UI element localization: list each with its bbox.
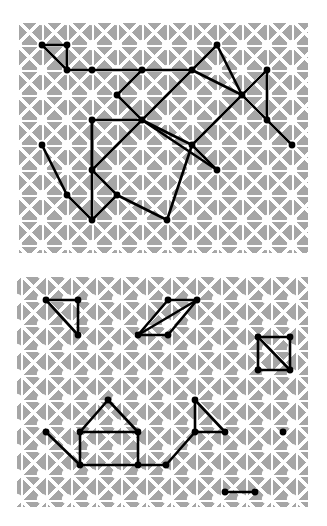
lattice-vertex <box>112 444 122 454</box>
lattice-vertex <box>237 240 247 250</box>
panel-bottom-canvas <box>17 277 308 507</box>
lattice-vertex <box>212 215 222 225</box>
lattice-vertex <box>162 344 172 354</box>
lattice-vertex <box>287 394 297 404</box>
lattice-vertex <box>187 444 197 454</box>
lattice-vertex <box>137 215 147 225</box>
graph-node <box>214 42 221 49</box>
lattice-vertex <box>112 165 122 175</box>
graph-node <box>64 42 71 49</box>
lattice-vertex <box>287 65 297 75</box>
graph-node <box>89 67 96 74</box>
lattice-vertex <box>237 190 247 200</box>
graph-node <box>192 429 199 436</box>
graph-node <box>89 117 96 124</box>
lattice-vertex <box>112 344 122 354</box>
graph-node <box>77 462 84 469</box>
lattice-vertex <box>112 40 122 50</box>
lattice-vertex <box>287 419 297 429</box>
lattice-vertex <box>262 215 272 225</box>
lattice-vertex <box>287 115 297 125</box>
lattice-vertex <box>87 394 97 404</box>
lattice-vertex <box>162 115 172 125</box>
graph-node <box>164 217 171 224</box>
graph-node <box>165 297 172 304</box>
lattice-vertex <box>187 215 197 225</box>
lattice-vertex <box>212 65 222 75</box>
lattice-vertex <box>37 165 47 175</box>
lattice-vertex <box>87 319 97 329</box>
lattice-vertex <box>37 344 47 354</box>
lattice-vertex <box>162 469 172 479</box>
lattice-vertex <box>37 65 47 75</box>
lattice-vertex <box>137 90 147 100</box>
lattice-vertex <box>87 40 97 50</box>
lattice-vertex <box>137 344 147 354</box>
lattice-vertex <box>112 469 122 479</box>
lattice-vertex <box>262 444 272 454</box>
lattice-vertex <box>262 190 272 200</box>
lattice-vertex <box>237 140 247 150</box>
lattice-vertex <box>237 494 247 504</box>
lattice-vertex <box>262 494 272 504</box>
lattice-vertex <box>262 165 272 175</box>
lattice-vertex <box>62 369 72 379</box>
lattice-vertex <box>37 444 47 454</box>
graph-node <box>89 167 96 174</box>
lattice-vertex <box>37 394 47 404</box>
lattice-vertex <box>62 140 72 150</box>
lattice-vertex <box>262 469 272 479</box>
lattice-vertex <box>262 319 272 329</box>
graph-node <box>114 192 121 199</box>
panel-top-canvas <box>17 23 308 253</box>
lattice-vertex <box>187 115 197 125</box>
lattice-vertex <box>162 190 172 200</box>
graph-node <box>264 117 271 124</box>
graph-node <box>239 92 246 99</box>
lattice-vertex <box>137 40 147 50</box>
lattice-vertex <box>212 469 222 479</box>
lattice-vertex <box>112 294 122 304</box>
lattice-vertex <box>162 444 172 454</box>
lattice-vertex <box>37 115 47 125</box>
lattice-vertex <box>212 394 222 404</box>
lattice-vertex <box>212 344 222 354</box>
lattice-vertex <box>212 444 222 454</box>
lattice-vertex <box>212 240 222 250</box>
lattice-vertex <box>187 240 197 250</box>
lattice-vertex <box>287 40 297 50</box>
lattice-vertex <box>187 344 197 354</box>
lattice-vertex <box>37 215 47 225</box>
lattice-vertex <box>162 369 172 379</box>
lattice-vertex <box>162 40 172 50</box>
lattice-vertex <box>162 140 172 150</box>
lattice-vertex <box>62 240 72 250</box>
lattice-vertex <box>87 469 97 479</box>
lattice-vertex <box>137 369 147 379</box>
graph-node <box>280 429 287 436</box>
lattice-vertex <box>87 444 97 454</box>
lattice-vertex <box>87 344 97 354</box>
lattice-vertex <box>237 165 247 175</box>
graph-node <box>39 142 46 149</box>
lattice-vertex <box>37 469 47 479</box>
panel-bottom <box>17 277 308 507</box>
lattice-vertex <box>62 344 72 354</box>
lattice-vertex <box>87 90 97 100</box>
graph-node <box>43 297 50 304</box>
graph-node <box>135 462 142 469</box>
lattice-vertex <box>162 419 172 429</box>
lattice-vertex <box>237 115 247 125</box>
lattice-vertex <box>212 319 222 329</box>
graph-node <box>163 462 170 469</box>
lattice-vertex <box>187 469 197 479</box>
lattice-vertex <box>162 165 172 175</box>
lattice-vertex <box>37 190 47 200</box>
lattice-vertex <box>112 240 122 250</box>
lattice-vertex <box>287 90 297 100</box>
lattice-vertex <box>37 319 47 329</box>
lattice-vertex <box>62 115 72 125</box>
lattice-vertex <box>112 215 122 225</box>
graph-node <box>165 332 172 339</box>
lattice-vertex <box>287 294 297 304</box>
